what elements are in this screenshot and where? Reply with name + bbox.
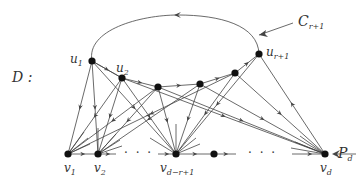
graph-name-label: D :: [11, 69, 32, 85]
node-u-r-plus-1: [255, 50, 262, 57]
node-v-mid: [210, 150, 217, 157]
path-label: Pd: [337, 145, 353, 163]
node-u4: [196, 80, 203, 87]
node-v-d: [321, 150, 328, 157]
incoming-stubs: [68, 124, 325, 154]
digraph-diagram: · · · · · · D : Cr+1 Pd u1 u: [0, 0, 361, 184]
cycle-label: Cr+1: [298, 13, 324, 31]
node-v-d-r-plus-1: [172, 150, 179, 157]
diagram-svg: · · · · · · D : Cr+1 Pd u1 u: [0, 0, 361, 184]
node-u3: [154, 83, 161, 90]
cycle-c-r-plus-1: [92, 12, 259, 61]
pointer-arrowhead-icon: [259, 30, 268, 37]
label-u1: u1: [70, 52, 83, 68]
path-ellipsis-left: · · ·: [124, 146, 153, 160]
cycle-pointer-arrow: [259, 23, 293, 37]
node-u1: [88, 57, 95, 64]
label-v-d: vd: [320, 161, 332, 177]
node-u5: [231, 69, 238, 76]
label-u-r-plus-1: ur+1: [266, 45, 289, 61]
node-v1: [64, 150, 71, 157]
label-v1: v1: [64, 161, 76, 177]
label-v-d-r-plus-1: vd−r+1: [160, 161, 194, 177]
label-v2: v2: [94, 161, 106, 177]
path-ellipsis-right: · · ·: [248, 146, 277, 160]
upper-nodes: [88, 50, 262, 90]
label-u2: u2: [116, 61, 129, 77]
node-v2: [94, 150, 101, 157]
